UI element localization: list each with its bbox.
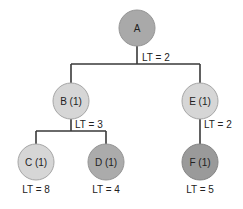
lt-label-d: LT = 4 [92,184,120,195]
node-e-label: E (1) [189,96,211,107]
lt-label-a: LT = 2 [142,52,170,63]
node-a: A [119,10,155,46]
node-a-label: A [134,23,141,34]
lt-label-c: LT = 8 [22,184,50,195]
node-c-label: C (1) [25,157,47,168]
tree-diagram: A B (1) E (1) C (1) D (1) F (1) LT = 2 L… [0,0,243,209]
node-d: D (1) [88,144,124,180]
lt-label-f: LT = 5 [186,184,214,195]
node-b-label: B (1) [60,96,82,107]
lt-label-b: LT = 3 [75,119,103,130]
node-f-label: F (1) [189,157,210,168]
node-c: C (1) [18,144,54,180]
node-d-label: D (1) [95,157,117,168]
node-e: E (1) [182,83,218,119]
edge-a-children [71,46,200,83]
node-f: F (1) [182,144,218,180]
node-b: B (1) [53,83,89,119]
lt-label-e: LT = 2 [204,119,232,130]
